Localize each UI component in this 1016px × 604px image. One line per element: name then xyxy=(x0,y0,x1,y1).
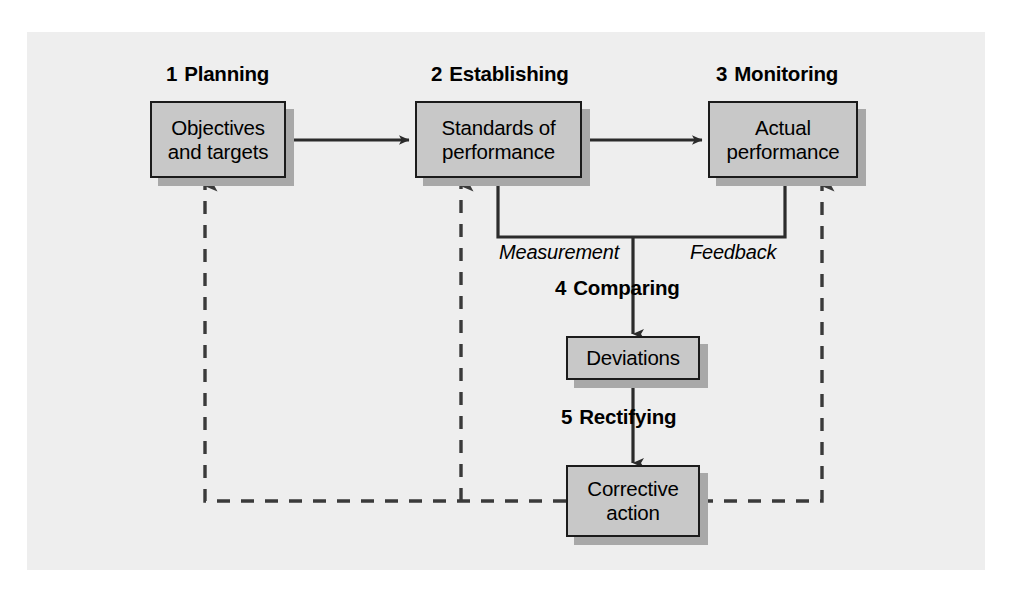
step-label-planning: 1Planning xyxy=(166,62,269,86)
box-actual-line1: Actual xyxy=(727,116,840,140)
diagram-canvas: 1Planning Objectives and targets 2Establ… xyxy=(0,0,1016,604)
box-standards-line1: Standards of xyxy=(442,116,556,140)
box-standards-line2: performance xyxy=(442,140,556,164)
box-deviations-line1: Deviations xyxy=(586,346,680,370)
dashed-loop-to-planning xyxy=(205,186,566,501)
box-corrective-line2: action xyxy=(587,501,678,525)
step-number-3: 3 xyxy=(716,62,727,85)
step-label-comparing: 4Comparing xyxy=(555,276,680,300)
box-corrective-line1: Corrective xyxy=(587,477,678,501)
box-standards-of-performance: Standards of performance xyxy=(415,101,582,178)
step-number-5: 5 xyxy=(561,405,572,428)
box-deviations: Deviations xyxy=(566,336,700,380)
step-number-2: 2 xyxy=(431,62,442,85)
box-objectives-line2: and targets xyxy=(168,140,268,164)
step-name-4: Comparing xyxy=(573,276,679,299)
line-measurement xyxy=(498,180,633,237)
step-name-3: Monitoring xyxy=(734,62,838,85)
step-number-1: 1 xyxy=(166,62,177,85)
box-objectives-and-targets: Objectives and targets xyxy=(150,101,286,178)
label-measurement: Measurement xyxy=(499,241,619,264)
dashed-loop-to-monitoring xyxy=(700,186,822,501)
step-name-5: Rectifying xyxy=(579,405,676,428)
step-number-4: 4 xyxy=(555,276,566,299)
step-label-rectifying: 5Rectifying xyxy=(561,405,676,429)
box-objectives-line1: Objectives xyxy=(168,116,268,140)
step-name-2: Establishing xyxy=(449,62,568,85)
line-feedback xyxy=(633,180,785,237)
diagram-connectors xyxy=(0,0,1016,604)
box-corrective-action: Corrective action xyxy=(566,465,700,537)
step-label-monitoring: 3Monitoring xyxy=(716,62,838,86)
label-feedback: Feedback xyxy=(690,241,776,264)
box-actual-line2: performance xyxy=(727,140,840,164)
step-label-establishing: 2Establishing xyxy=(431,62,569,86)
step-name-1: Planning xyxy=(184,62,269,85)
box-actual-performance: Actual performance xyxy=(708,101,858,178)
